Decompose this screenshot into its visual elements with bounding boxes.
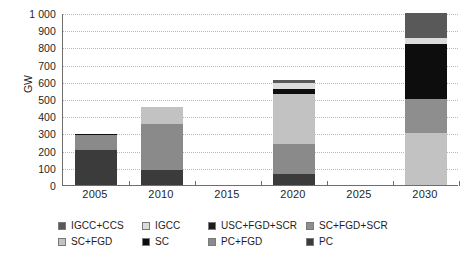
y-axis-tick-label: 900 [4,25,56,37]
chart-container: GW 01002003004005006007008009001 000 200… [0,0,466,265]
y-axis-label: GW [22,54,34,114]
bar-segment-sc [273,89,315,94]
bar-segment-pc-fgd [75,135,117,150]
x-axis-tick [261,181,262,186]
legend-item-sc[interactable]: SC [142,234,169,249]
gridline [63,14,458,15]
x-axis-tick-label: 2025 [329,188,389,200]
legend-swatch-icon [142,222,150,230]
bar-2020 [273,80,315,185]
gridline [63,117,458,118]
legend-item-pc[interactable]: PC [306,234,333,249]
y-axis-tick-label: 1 000 [4,8,56,20]
x-axis-tick-label: 2020 [263,188,323,200]
bar-segment-sc-fgd [141,107,183,124]
x-axis-tick-label: 2010 [131,188,191,200]
bar-segment-sc-fgd [273,94,315,144]
gridline [63,134,458,135]
bar-segment-igcc [273,83,315,89]
y-axis-tick-label: 200 [4,146,56,158]
legend-item-label: SC+FGD [71,237,112,247]
bar-segment-pc-fgd [273,144,315,174]
bar-segment-pc [273,174,315,185]
legend-swatch-icon [208,238,216,246]
gridline [63,48,458,49]
x-axis-tick-label: 2030 [395,188,455,200]
legend-item-label: IGCC [155,221,180,231]
bar-2010 [141,107,183,185]
legend-item-sc-fgd[interactable]: SC+FGD [58,234,112,249]
legend-item-pc-fgd[interactable]: PC+FGD [208,234,262,249]
legend-item-igcc-ccs[interactable]: IGCC+CCS [58,218,124,233]
legend-swatch-icon [306,238,314,246]
legend-swatch-icon [58,222,66,230]
legend-row: SC+FGDSCPC+FGDPC [58,234,458,249]
bar-segment-pc-fgd [141,124,183,170]
bar-segment-pc [75,150,117,185]
y-axis-tick-label: 300 [4,128,56,140]
legend-item-label: SC+FGD+SCR [319,221,388,231]
gridline [63,66,458,67]
bar-2030 [405,13,447,185]
x-axis-tick [129,181,130,186]
plot-area [62,14,458,186]
x-axis-tick [393,181,394,186]
legend-row: IGCC+CCSIGCCUSC+FGD+SCRSC+FGD+SCR [58,218,458,233]
bar-segment-igcc [405,38,447,44]
x-axis-tick-label: 2015 [197,188,257,200]
gridline [63,152,458,153]
x-axis-tick [195,181,196,186]
y-axis-tick-label: 100 [4,163,56,175]
gridline [63,31,458,32]
chart-legend: IGCC+CCSIGCCUSC+FGD+SCRSC+FGD+SCR SC+FGD… [58,218,458,254]
legend-item-sc-fgd-scr[interactable]: SC+FGD+SCR [306,218,388,233]
legend-swatch-icon [306,222,314,230]
bar-segment-igcc-ccs [273,80,315,83]
bar-segment-pc [141,170,183,185]
legend-item-usc-fgd-scr[interactable]: USC+FGD+SCR [208,218,297,233]
bar-segment-sc [405,44,447,99]
x-axis-tick [459,181,460,186]
legend-item-label: USC+FGD+SCR [221,221,297,231]
legend-swatch-icon [142,238,150,246]
legend-item-label: PC+FGD [221,237,262,247]
x-axis-tick-label: 2005 [65,188,125,200]
bar-segment-sc-fgd [405,133,447,185]
y-axis-tick-label: 800 [4,42,56,54]
gridline [63,100,458,101]
legend-swatch-icon [208,222,216,230]
x-axis-tick [327,181,328,186]
legend-item-label: IGCC+CCS [71,221,124,231]
y-axis-tick-label: 0 [4,180,56,192]
legend-item-igcc[interactable]: IGCC [142,218,180,233]
legend-swatch-icon [58,238,66,246]
bar-segment-igcc-ccs [405,13,447,38]
bar-2005 [75,134,117,185]
legend-item-label: SC [155,237,169,247]
bar-segment-sc [75,134,117,135]
bar-segment-sc-fgd-scr [405,99,447,133]
gridline [63,169,458,170]
gridline [63,83,458,84]
x-axis-tick-labels: 200520102015202020252030 [62,188,458,206]
legend-item-label: PC [319,237,333,247]
